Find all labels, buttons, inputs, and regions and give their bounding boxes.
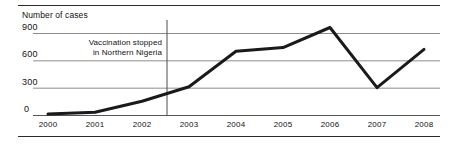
x-tick-label: 2001 — [86, 120, 105, 129]
cases-series-line — [48, 28, 424, 115]
gridlines-group — [33, 34, 440, 89]
x-tick-label: 2003 — [180, 120, 199, 129]
x-tick-label: 2006 — [321, 120, 340, 129]
x-tick-label: 2005 — [274, 120, 293, 129]
x-tick-label: 2004 — [227, 120, 246, 129]
y-tick-label: 900 — [22, 22, 38, 32]
x-tick-label: 2000 — [39, 120, 58, 129]
y-tick-label: 600 — [22, 49, 38, 59]
x-tick-label: 2008 — [415, 120, 434, 129]
x-tick-label: 2002 — [133, 120, 152, 129]
y-tick-label: 0 — [24, 104, 29, 114]
x-tick-label: 2007 — [368, 120, 387, 129]
chart-figure: Number of cases Vaccination stopped in N… — [0, 0, 457, 144]
y-tick-label: 300 — [22, 77, 38, 87]
